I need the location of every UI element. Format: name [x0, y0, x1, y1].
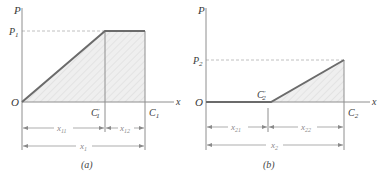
- point-label-c2: C2: [348, 107, 359, 120]
- point-label-c1: C1: [149, 107, 159, 120]
- point-label-c1-prime: C′1: [91, 107, 100, 120]
- panel-a: P x O P1 C′1 C1 x11 x12 x1 (a): [8, 4, 181, 171]
- dim-label-x2: x2: [270, 140, 278, 151]
- dim-label-x21: x21: [230, 122, 241, 133]
- diagram-canvas: P x O P1 C′1 C1 x11 x12 x1 (a): [0, 0, 387, 180]
- area-under-curve-a: [22, 31, 145, 102]
- origin-label-a: O: [11, 96, 19, 108]
- dim-label-x11: x11: [56, 123, 67, 134]
- level-label-p2: P2: [192, 55, 203, 68]
- point-label-c2-prime: C′2: [257, 89, 266, 102]
- dim-label-x1: x1: [79, 141, 87, 152]
- dim-label-x22: x22: [300, 122, 311, 133]
- panel-b: P x O P2 C′2 C2 x21 x22 x2 (b): [192, 4, 377, 171]
- x-axis-label-b: x: [371, 96, 377, 107]
- y-axis-label-a: P: [13, 4, 21, 16]
- origin-label-b: O: [195, 96, 203, 108]
- y-axis-label-b: P: [197, 4, 205, 16]
- dim-label-x12: x12: [119, 123, 130, 134]
- level-label-p1: P1: [8, 26, 19, 39]
- caption-a: (a): [81, 159, 93, 171]
- caption-b: (b): [263, 159, 275, 171]
- x-axis-label-a: x: [175, 96, 181, 107]
